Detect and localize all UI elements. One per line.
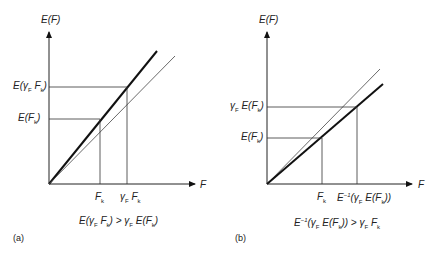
x-axis-label-b: F bbox=[418, 180, 424, 190]
x-tick-fk-b: Fk bbox=[317, 192, 326, 204]
x-tick-gfk-a: γF Fk bbox=[120, 192, 141, 204]
y-tick-fk-a: E(Fk) bbox=[18, 113, 40, 125]
y-axis-label-b: E(F) bbox=[259, 15, 278, 25]
inequality-a: E(γF Fk) > γF E(Fk) bbox=[79, 216, 158, 228]
thick-curve-a bbox=[49, 51, 157, 184]
x-tick-fk-a: Fk bbox=[95, 192, 104, 204]
y-tick-gefk-b: γF E(Fk) bbox=[230, 101, 264, 113]
caption-a: (a) bbox=[13, 233, 24, 243]
panel-a-graph bbox=[49, 32, 195, 184]
panel-b-graph bbox=[267, 32, 412, 184]
y-axis-label-a: E(F) bbox=[41, 15, 60, 25]
thick-curve-b bbox=[267, 84, 383, 184]
thin-line-b bbox=[267, 69, 380, 184]
x-tick-inv-b: E−1(γF E(Fk)) bbox=[337, 192, 391, 205]
caption-b: (b) bbox=[235, 233, 246, 243]
thin-line-a bbox=[49, 56, 175, 184]
y-tick-fk-b: E(Fk) bbox=[241, 132, 263, 144]
inequality-b: E−1(γF E(Fk)) > γF Fk bbox=[294, 217, 380, 230]
y-tick-gfk-a: E(γF Fk) bbox=[13, 81, 47, 93]
x-axis-label-a: F bbox=[200, 180, 206, 190]
